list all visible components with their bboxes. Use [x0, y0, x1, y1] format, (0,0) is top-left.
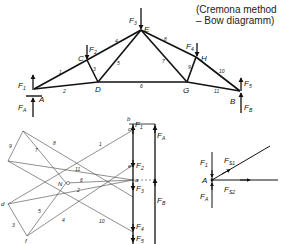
node-G: G: [183, 86, 189, 95]
detail-FS1-line: [212, 146, 270, 180]
poly-label-F5: F5: [136, 234, 144, 244]
point-c: c: [128, 126, 131, 132]
poly-label-8: 8: [53, 140, 56, 146]
node-D: D: [95, 85, 101, 94]
label-F2: F2: [89, 45, 97, 55]
point-f: f: [25, 238, 28, 244]
detail-label-A: A: [201, 176, 207, 185]
member-label-2: 2: [62, 88, 66, 94]
polygon-member-labels: 1 2 3 4 5 6 7 8 9 10 11: [9, 140, 105, 228]
point-N: N: [58, 181, 63, 187]
node-A: A: [38, 95, 44, 104]
node-H: H: [201, 54, 207, 63]
member-label-7: 7: [162, 58, 165, 64]
poly-label-FA: FA: [157, 131, 166, 141]
node-C: C: [78, 54, 84, 63]
node-E: E: [144, 25, 150, 34]
poly-label-F2: F2: [136, 161, 144, 171]
poly-label-F3: F3: [136, 184, 144, 194]
poly-label-6: 6: [80, 177, 83, 183]
truss-load-arrows: [33, 8, 241, 117]
poly-label-3: 3: [12, 222, 15, 228]
truss-member-numbers: 1 2 3 4 5 6 7 8 9 10 11: [59, 36, 225, 94]
label-F1: F1: [18, 81, 26, 91]
member-label-10: 10: [219, 68, 225, 74]
detail-label-FA: FA: [200, 192, 209, 202]
poly-label-F1: F1: [135, 120, 143, 130]
label-FA: FA: [18, 103, 27, 113]
member-label-5: 5: [117, 60, 120, 66]
truss-force-labels: F1 FA F2 F3 F4 F5 FB: [18, 16, 253, 113]
detail-label-F1: F1: [200, 158, 208, 168]
member-label-9: 9: [188, 64, 191, 70]
label-F5: F5: [244, 79, 252, 89]
member-label-8: 8: [164, 36, 167, 42]
member-5: [98, 30, 141, 82]
member-label-4: 4: [115, 38, 118, 44]
node-A-detail: [212, 146, 278, 208]
detail-label-FS1: FS1: [224, 156, 235, 166]
polygon-point-labels: b c e a d f N: [1, 116, 139, 244]
node-N-marker: [66, 181, 69, 184]
member-label-11: 11: [214, 88, 219, 94]
member-4: [87, 30, 141, 60]
poly-label-FB: FB: [157, 196, 166, 206]
member-label-6: 6: [140, 83, 143, 89]
arrow-detail-FS1-icon: [222, 170, 230, 175]
truss: [34, 30, 240, 91]
poly-label-10: 10: [99, 218, 105, 224]
detail-node-A-marker: [211, 179, 214, 182]
poly-label-9: 9: [9, 143, 12, 149]
node-B: B: [230, 97, 236, 106]
label-F4: F4: [186, 42, 194, 52]
poly-label-F4: F4: [136, 222, 144, 232]
poly-label-11: 11: [75, 166, 80, 172]
point-b: b: [127, 116, 131, 122]
poly-label-1: 1: [99, 141, 102, 147]
poly-label-2: 2: [76, 187, 80, 193]
poly-label-5: 5: [38, 208, 41, 214]
member-label-3: 3: [93, 66, 96, 72]
member-label-1: 1: [59, 69, 62, 75]
node-A-detail-labels: F1 A FA FS1 FS2: [200, 156, 235, 202]
label-FB: FB: [244, 103, 253, 113]
cremona-diagram: A C D E G H B F1 FA F2 F3 F4 F5 FB 1 2 3…: [0, 0, 286, 244]
poly-label-7: 7: [35, 147, 38, 153]
polygon-load-labels: F1 F2 F3 F4 F5 FA FB: [135, 120, 166, 244]
label-F3: F3: [129, 16, 137, 26]
poly-label-4: 4: [62, 217, 65, 223]
detail-label-FS2: FS2: [224, 185, 235, 195]
point-d: d: [1, 201, 5, 207]
